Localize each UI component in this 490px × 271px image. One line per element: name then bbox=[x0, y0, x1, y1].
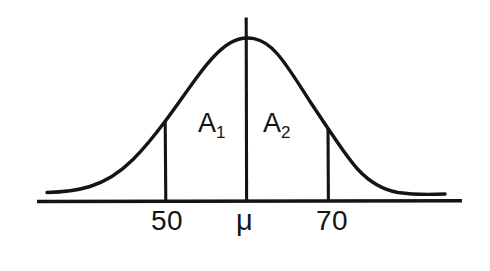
boundary-line-50 bbox=[165, 122, 166, 202]
area-label-a1-text: A bbox=[198, 108, 216, 138]
x-axis-line bbox=[37, 201, 462, 202]
normal-distribution-figure: A1 A2 50 μ 70 bbox=[0, 0, 490, 271]
area-label-a2: A2 bbox=[263, 110, 290, 141]
area-label-a2-subscript: 2 bbox=[281, 123, 290, 142]
x-tick-label-mu: μ bbox=[236, 206, 253, 235]
area-label-a1-subscript: 1 bbox=[216, 123, 225, 142]
area-label-a2-text: A bbox=[263, 108, 281, 138]
x-tick-label-70: 70 bbox=[316, 207, 348, 235]
area-label-a1: A1 bbox=[198, 110, 225, 141]
x-tick-label-50: 50 bbox=[151, 207, 183, 235]
